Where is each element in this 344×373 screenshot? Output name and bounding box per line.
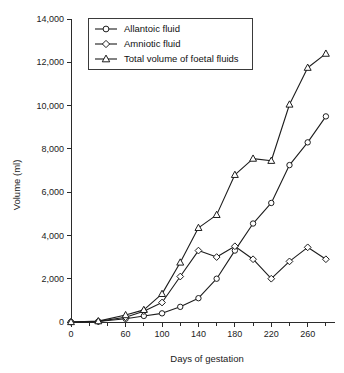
y-tick-label: 10,000 bbox=[36, 101, 64, 111]
y-tick-label: 2,000 bbox=[41, 274, 64, 284]
chart-container: 02,0004,0006,0008,00010,00012,00014,000 … bbox=[0, 0, 344, 373]
data-point bbox=[195, 247, 202, 254]
series-3 bbox=[68, 50, 330, 325]
fluid-volume-line-chart: 02,0004,0006,0008,00010,00012,00014,000 … bbox=[0, 0, 344, 373]
data-point bbox=[177, 273, 184, 280]
y-tick-label: 6,000 bbox=[41, 187, 64, 197]
data-point bbox=[195, 224, 202, 230]
data-point bbox=[250, 155, 257, 161]
series-line bbox=[71, 116, 326, 322]
x-tick-label: 220 bbox=[264, 329, 279, 339]
series-line bbox=[71, 54, 326, 322]
x-tick-label: 60 bbox=[121, 329, 131, 339]
data-point bbox=[214, 276, 219, 281]
data-point bbox=[178, 304, 183, 309]
legend-label: Allantoic fluid bbox=[124, 23, 180, 34]
data-point bbox=[287, 162, 292, 167]
y-axis: 02,0004,0006,0008,00010,00012,00014,000 bbox=[36, 14, 71, 327]
circle-marker-icon bbox=[103, 26, 109, 32]
y-tick-label: 8,000 bbox=[41, 144, 64, 154]
y-tick-label: 0 bbox=[59, 317, 64, 327]
y-tick-label: 12,000 bbox=[36, 57, 64, 67]
data-point bbox=[213, 211, 220, 217]
data-point bbox=[286, 101, 293, 107]
data-point bbox=[323, 114, 328, 119]
x-tick-label: 260 bbox=[300, 329, 315, 339]
x-tick-label: 0 bbox=[68, 329, 73, 339]
y-tick-label: 4,000 bbox=[41, 231, 64, 241]
x-tick-label: 100 bbox=[155, 329, 170, 339]
data-point bbox=[305, 140, 310, 145]
x-axis-title: Days of gestation bbox=[170, 353, 243, 364]
data-point bbox=[323, 256, 330, 263]
series-1 bbox=[68, 114, 328, 325]
data-point bbox=[159, 290, 166, 296]
y-tick-label: 14,000 bbox=[36, 14, 64, 24]
x-tick-label: 180 bbox=[227, 329, 242, 339]
legend-label: Amniotic fluid bbox=[124, 38, 181, 49]
y-axis-title: Volume (ml) bbox=[11, 160, 22, 211]
data-point bbox=[322, 50, 329, 56]
data-point bbox=[159, 299, 166, 306]
data-point bbox=[250, 221, 255, 226]
data-point bbox=[159, 311, 164, 316]
data-point bbox=[269, 200, 274, 205]
series-line bbox=[71, 246, 326, 322]
legend-label: Total volume of foetal fluids bbox=[124, 53, 239, 64]
x-axis: 060100140180220260 bbox=[68, 322, 335, 339]
data-point bbox=[196, 295, 201, 300]
data-series-group bbox=[68, 50, 330, 325]
x-tick-label: 140 bbox=[191, 329, 206, 339]
data-point bbox=[213, 254, 220, 261]
data-point bbox=[304, 64, 311, 70]
data-point bbox=[177, 259, 184, 265]
chart-legend: Allantoic fluidAmniotic fluidTotal volum… bbox=[88, 18, 252, 69]
series-2 bbox=[68, 243, 330, 326]
